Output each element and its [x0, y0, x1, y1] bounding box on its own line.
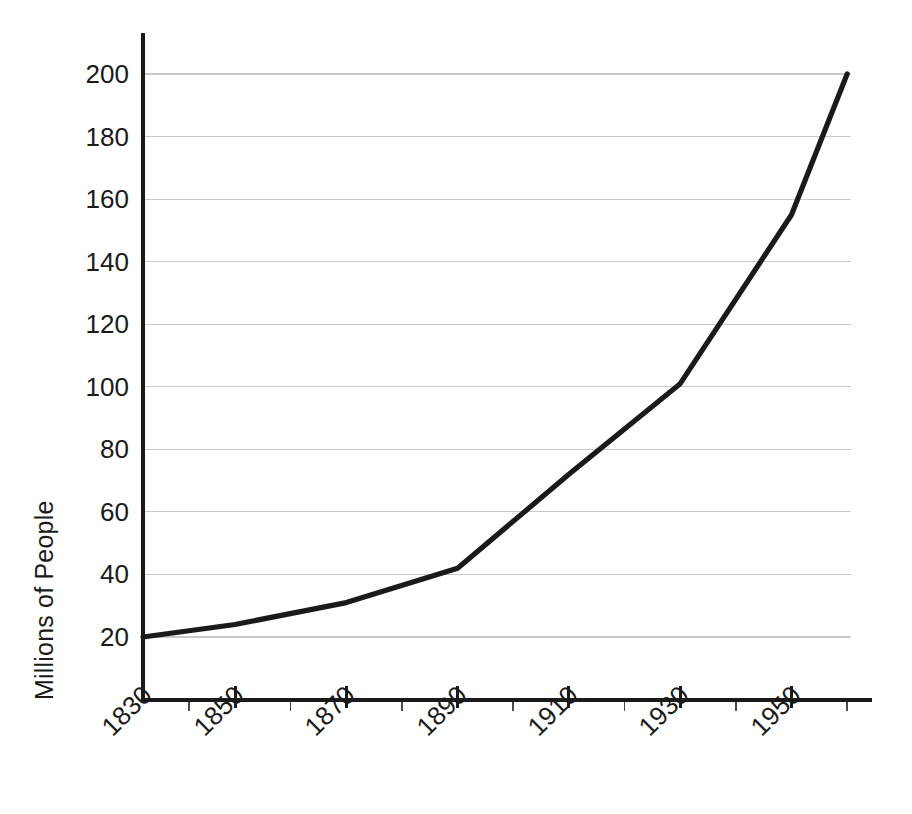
data-series-line [143, 74, 847, 637]
y-tick-label: 20 [39, 624, 129, 650]
y-tick-label: 180 [39, 124, 129, 150]
y-tick-label: 200 [39, 61, 129, 87]
y-tick-label: 140 [39, 249, 129, 275]
y-tick-label: 80 [39, 436, 129, 462]
y-tick-label: 120 [39, 311, 129, 337]
y-tick-label: 60 [39, 499, 129, 525]
gridlines [143, 74, 851, 637]
line-chart: Millions of People 204060801001201401601… [0, 0, 912, 814]
y-tick-label: 100 [39, 374, 129, 400]
y-tick-label: 40 [39, 561, 129, 587]
y-tick-label: 160 [39, 186, 129, 212]
